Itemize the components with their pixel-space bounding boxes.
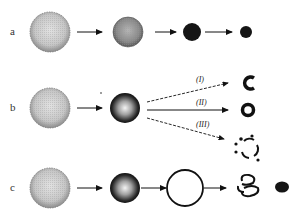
branch-label-ii: (II) bbox=[196, 98, 207, 107]
process-diagram: a b c (I) (II) (III) bbox=[0, 0, 300, 219]
dot-icon bbox=[100, 92, 102, 94]
large-textured-sphere-icon bbox=[30, 88, 70, 128]
medium-textured-sphere-icon bbox=[113, 17, 143, 47]
dark-blob-icon bbox=[275, 182, 289, 193]
branch-label-i: (I) bbox=[196, 75, 204, 84]
ring-icon bbox=[243, 105, 254, 116]
branch-arrow-i-icon bbox=[147, 83, 228, 102]
tangled-fragments-icon bbox=[238, 175, 258, 196]
broken-ring-with-dots-icon bbox=[234, 134, 259, 161]
row-b bbox=[30, 77, 260, 162]
row-label-c: c bbox=[10, 181, 15, 193]
large-textured-sphere-icon bbox=[30, 168, 70, 208]
diagram-canvas bbox=[0, 0, 300, 219]
shaded-sphere-icon bbox=[110, 93, 140, 123]
row-label-b: b bbox=[10, 101, 16, 113]
hollow-ring-icon bbox=[167, 170, 203, 206]
small-dark-sphere-icon bbox=[240, 26, 252, 38]
branch-label-iii: (III) bbox=[196, 120, 209, 129]
large-textured-sphere-icon bbox=[30, 12, 70, 52]
row-a bbox=[30, 12, 252, 52]
row-label-a: a bbox=[10, 25, 15, 37]
c-shaped-fragment-icon bbox=[245, 77, 254, 89]
dark-sphere-icon bbox=[183, 23, 201, 41]
branch-arrow-iii-icon bbox=[147, 118, 224, 139]
shaded-sphere-icon bbox=[110, 173, 140, 203]
row-c bbox=[30, 168, 289, 208]
